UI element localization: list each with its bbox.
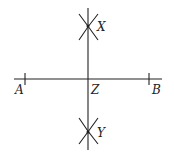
label-z: Z (90, 83, 100, 97)
label-y: Y (97, 126, 106, 140)
label-x: X (96, 20, 106, 34)
bisector-diagram: X Y A B Z (0, 0, 174, 162)
label-a: A (14, 83, 24, 97)
label-b: B (151, 83, 161, 97)
